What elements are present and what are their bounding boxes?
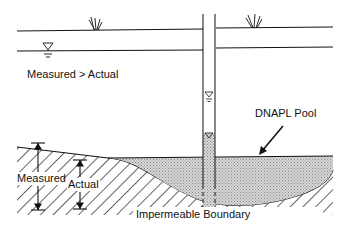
water-table-line [17, 47, 333, 51]
measured-label: Measured [17, 172, 66, 184]
dnapl-pool-diagram: Measured > Actual DNAPL Pool Measured Ac… [0, 0, 349, 237]
water-level-icon [205, 92, 213, 102]
grass-icon [89, 17, 102, 30]
monitoring-well [203, 14, 215, 212]
diagram-canvas: Measured > Actual DNAPL Pool Measured Ac… [0, 0, 349, 237]
grass-icon [246, 14, 262, 28]
water-table-icon [43, 43, 53, 57]
measured-gt-actual-label: Measured > Actual [27, 68, 118, 80]
dnapl-arrow [259, 126, 283, 155]
actual-label: Actual [68, 178, 99, 190]
dnapl-pool-label: DNAPL Pool [255, 107, 316, 119]
ground-surface [17, 27, 333, 31]
impermeable-boundary-label: Impermeable Boundary [136, 208, 251, 220]
